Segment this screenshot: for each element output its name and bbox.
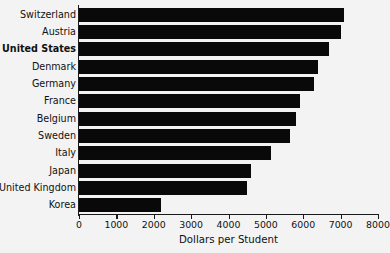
bar-row: [79, 8, 378, 22]
x-axis-title: Dollars per Student: [79, 235, 378, 245]
bar: [79, 198, 161, 212]
x-tick-label: 7000: [329, 220, 353, 229]
category-label: Korea: [49, 200, 76, 210]
x-tick-label: 2000: [142, 220, 166, 229]
bar: [79, 146, 271, 160]
category-label: Italy: [55, 148, 76, 158]
category-label: Denmark: [32, 62, 76, 72]
bar-row: [79, 164, 378, 178]
bar-row: [79, 25, 378, 39]
bar-row: [79, 77, 378, 91]
category-label: Japan: [49, 166, 76, 176]
bar: [79, 164, 251, 178]
bar-row: [79, 42, 378, 56]
plot-area: [79, 6, 378, 214]
x-tick-label: 4000: [217, 220, 241, 229]
category-label: Switzerland: [20, 10, 76, 20]
category-label: Austria: [42, 27, 76, 37]
x-tick-label: 5000: [254, 220, 278, 229]
bar-row: [79, 112, 378, 126]
bar: [79, 77, 314, 91]
category-label: United Kingdom: [0, 183, 76, 193]
bar: [79, 42, 329, 56]
bar: [79, 181, 247, 195]
category-label: Belgium: [37, 114, 76, 124]
category-label: United States: [2, 44, 76, 54]
x-tick-label: 0: [76, 220, 82, 229]
bar: [79, 8, 344, 22]
bar: [79, 25, 341, 39]
bar: [79, 94, 300, 108]
bar: [79, 112, 296, 126]
bar-row: [79, 129, 378, 143]
x-tick-label: 1000: [104, 220, 128, 229]
category-label: France: [44, 96, 76, 106]
x-tick-label: 3000: [179, 220, 203, 229]
bar-row: [79, 146, 378, 160]
bar: [79, 60, 318, 74]
x-tick-label: 6000: [291, 220, 315, 229]
bar-row: [79, 198, 378, 212]
category-label: Germany: [32, 79, 76, 89]
category-label: Sweden: [38, 131, 76, 141]
bar-row: [79, 60, 378, 74]
bar-row: [79, 94, 378, 108]
x-tick-label: 8000: [366, 220, 390, 229]
bar: [79, 129, 290, 143]
bar-row: [79, 181, 378, 195]
